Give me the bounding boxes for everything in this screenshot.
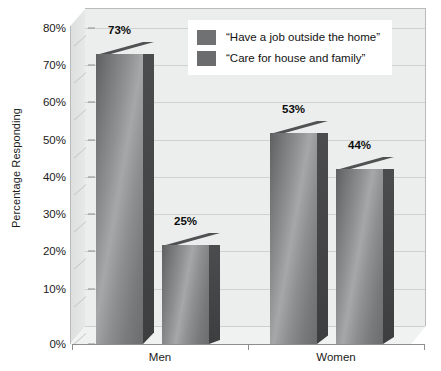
bar-side-face xyxy=(143,54,154,344)
plot-front-left-edge xyxy=(70,26,71,344)
bar-front-face xyxy=(270,133,317,344)
y-tick-label-10: 10% xyxy=(20,283,66,295)
legend-swatch-icon xyxy=(197,30,216,45)
y-tick-mark-40 xyxy=(88,177,95,178)
x-tick-mark-end xyxy=(424,344,425,350)
plot-left-wall xyxy=(70,8,86,344)
y-tick-mark-30 xyxy=(88,214,95,215)
x-tick-label-men: Men xyxy=(149,351,171,363)
bar-label-men-care-for-house: 25% xyxy=(162,215,209,227)
bar-side-face xyxy=(383,169,394,344)
y-axis-tick-labels: 80% 70% 60% 50% 40% 30% 20% 10% 0% xyxy=(20,0,66,371)
y-tick-mark-10 xyxy=(88,289,95,290)
bar-side-face xyxy=(209,245,220,344)
x-tick-label-women: Women xyxy=(316,351,355,363)
x-tick-mark-middle xyxy=(248,344,249,350)
bar-front-face xyxy=(96,54,143,344)
bar-front-face xyxy=(336,169,383,344)
legend: “Have a job outside the home” “Care for … xyxy=(188,20,392,75)
y-tick-mark-50 xyxy=(88,140,95,141)
legend-label-have-a-job: “Have a job outside the home” xyxy=(226,31,380,43)
y-tick-label-70: 70% xyxy=(20,59,66,71)
bar-women-care-for-house[interactable] xyxy=(336,169,383,344)
y-tick-label-50: 50% xyxy=(20,134,66,146)
plot-back-right-edge xyxy=(425,8,426,326)
legend-item-have-a-job[interactable]: “Have a job outside the home” xyxy=(197,27,392,47)
y-tick-label-0: 0% xyxy=(20,338,66,350)
y-tick-mark-60 xyxy=(88,102,95,103)
bar-men-care-for-house[interactable] xyxy=(162,245,209,344)
legend-item-care-for-house[interactable]: “Care for house and family” xyxy=(197,48,392,68)
y-tick-label-60: 60% xyxy=(20,96,66,108)
bar-women-have-a-job[interactable] xyxy=(270,133,317,344)
y-tick-mark-70 xyxy=(88,65,95,66)
bar-chart: Percentage Responding 80% 70% 60% 50% 40… xyxy=(0,0,441,371)
x-tick-mark-start xyxy=(72,344,73,350)
y-tick-mark-20 xyxy=(88,251,95,252)
y-tick-mark-80 xyxy=(88,28,95,29)
bar-label-women-have-a-job: 53% xyxy=(270,103,317,115)
y-tick-label-40: 40% xyxy=(20,171,66,183)
plot-top-edge xyxy=(85,8,425,9)
bar-label-men-have-a-job: 73% xyxy=(96,24,143,36)
y-tick-label-20: 20% xyxy=(20,245,66,257)
bar-front-face xyxy=(162,245,209,344)
y-tick-label-30: 30% xyxy=(20,208,66,220)
bar-men-have-a-job[interactable] xyxy=(96,54,143,344)
y-tick-label-80: 80% xyxy=(20,22,66,34)
legend-label-care-for-house: “Care for house and family” xyxy=(226,52,365,64)
legend-swatch-icon xyxy=(197,51,216,66)
bar-side-face xyxy=(317,133,328,344)
bar-label-women-care-for-house: 44% xyxy=(336,139,383,151)
